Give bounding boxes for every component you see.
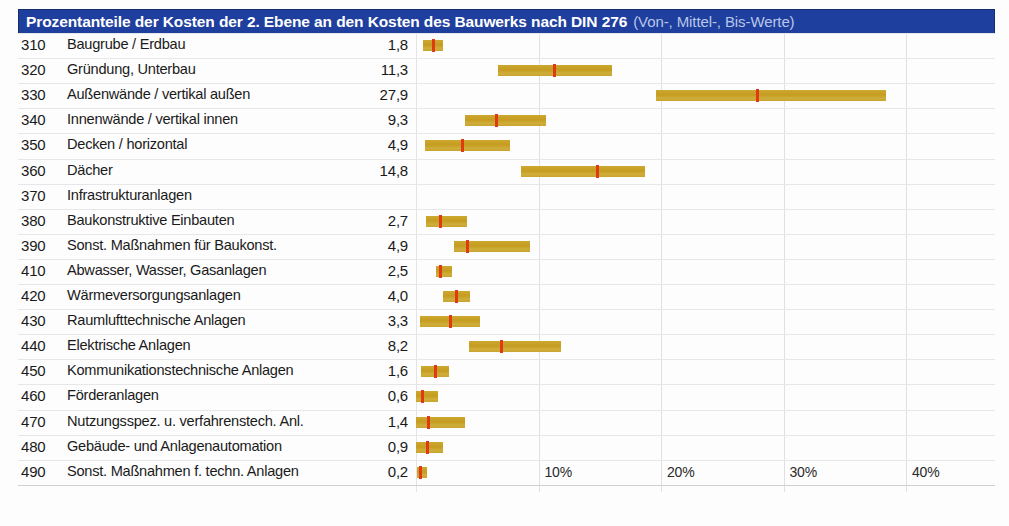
- range-bar: [436, 266, 452, 277]
- row-code: 490: [21, 463, 63, 480]
- page-title-note: (Von-, Mittel-, Bis-Werte): [633, 13, 794, 30]
- mean-marker: [434, 365, 437, 378]
- row-separator: [18, 410, 995, 411]
- row-code: 480: [21, 438, 63, 455]
- chart-title-bar: Prozentanteile der Kosten der 2. Ebene a…: [18, 9, 995, 34]
- gridline-40: [906, 34, 907, 492]
- row-value: 0,9: [318, 438, 408, 455]
- row-code: 430: [21, 312, 63, 329]
- mean-marker: [439, 265, 442, 278]
- row-value: 4,9: [318, 136, 408, 153]
- row-label: Außenwände / vertikal außen: [67, 86, 250, 102]
- row-code: 320: [21, 61, 63, 78]
- row-separator: [18, 33, 995, 34]
- row-separator: [18, 384, 995, 385]
- row-value: 4,0: [318, 287, 408, 304]
- row-value: 4,9: [318, 237, 408, 254]
- gridline-20: [661, 34, 662, 492]
- row-code: 340: [21, 111, 63, 128]
- row-label: Infrastrukturanlagen: [67, 187, 192, 203]
- range-bar: [469, 341, 561, 352]
- mean-marker: [455, 290, 458, 303]
- row-separator: [18, 58, 995, 59]
- row-label: Baukonstruktive Einbauten: [67, 212, 234, 228]
- mean-marker: [461, 139, 464, 152]
- row-value: 1,8: [318, 36, 408, 53]
- mean-marker: [439, 215, 442, 228]
- row-value: 27,9: [318, 86, 408, 103]
- row-code: 470: [21, 413, 63, 430]
- range-bar: [416, 442, 443, 453]
- row-separator: [18, 259, 995, 260]
- gridline-30: [784, 34, 785, 492]
- row-label: Sonst. Maßnahmen f. techn. Anlagen: [67, 463, 299, 479]
- row-value: 11,3: [318, 61, 408, 78]
- mean-marker: [553, 64, 556, 77]
- mean-marker: [421, 390, 424, 403]
- axis-baseline: [18, 485, 995, 486]
- range-bar: [416, 391, 438, 402]
- row-label: Wärmeversorgungsanlagen: [67, 287, 241, 303]
- row-code: 350: [21, 136, 63, 153]
- row-code: 390: [21, 237, 63, 254]
- row-separator: [18, 159, 995, 160]
- row-code: 410: [21, 262, 63, 279]
- x-tick-label-20: 20%: [667, 464, 694, 480]
- row-code: 460: [21, 387, 63, 404]
- row-value: 0,6: [318, 387, 408, 404]
- x-tick-label-10: 10%: [545, 464, 572, 480]
- row-separator: [18, 83, 995, 84]
- row-separator: [18, 234, 995, 235]
- row-value: 8,2: [318, 337, 408, 354]
- row-separator: [18, 334, 995, 335]
- mean-marker: [500, 340, 503, 353]
- row-separator: [18, 133, 995, 134]
- row-separator: [18, 359, 995, 360]
- row-separator: [18, 309, 995, 310]
- row-label: Förderanlagen: [67, 387, 159, 403]
- row-label: Sonst. Maßnahmen für Baukonst.: [67, 237, 277, 253]
- row-value: 0,2: [318, 463, 408, 480]
- x-tick-label-40: 40%: [912, 464, 939, 480]
- row-code: 360: [21, 162, 63, 179]
- range-bar: [465, 115, 546, 126]
- mean-marker: [432, 39, 435, 52]
- row-label: Raumlufttechnische Anlagen: [67, 312, 245, 328]
- row-label: Dächer: [67, 162, 113, 178]
- mean-marker: [426, 441, 429, 454]
- row-code: 370: [21, 187, 63, 204]
- range-bar: [426, 216, 468, 227]
- row-label: Kommunikationstechnische Anlagen: [67, 362, 293, 378]
- row-code: 380: [21, 212, 63, 229]
- row-value: 9,3: [318, 111, 408, 128]
- mean-marker: [466, 240, 469, 253]
- row-separator: [18, 108, 995, 109]
- row-label: Decken / horizontal: [67, 136, 187, 152]
- row-value: 3,3: [318, 312, 408, 329]
- row-label: Nutzungsspez. u. verfahrenstech. Anl.: [67, 413, 304, 429]
- row-code: 420: [21, 287, 63, 304]
- row-code: 310: [21, 36, 63, 53]
- row-separator: [18, 284, 995, 285]
- row-value: 14,8: [318, 162, 408, 179]
- page-title: Prozentanteile der Kosten der 2. Ebene a…: [26, 13, 627, 31]
- row-label: Innenwände / vertikal innen: [67, 111, 238, 127]
- row-label: Gebäude- und Anlagenautomation: [67, 438, 282, 454]
- row-code: 440: [21, 337, 63, 354]
- row-value: 1,4: [318, 413, 408, 430]
- row-code: 330: [21, 86, 63, 103]
- mean-marker: [419, 466, 422, 479]
- range-bar: [521, 166, 645, 177]
- chart-container: Prozentanteile der Kosten der 2. Ebene a…: [0, 0, 1009, 526]
- range-bar: [425, 140, 511, 151]
- row-value: 1,6: [318, 362, 408, 379]
- range-bar: [416, 417, 465, 428]
- row-value: 2,5: [318, 262, 408, 279]
- mean-marker: [756, 89, 759, 102]
- chart-body: 310Baugrube / Erdbau1,8320Gründung, Unte…: [18, 34, 995, 497]
- gridline-10: [539, 34, 540, 492]
- range-bar: [656, 90, 886, 101]
- row-label: Abwasser, Wasser, Gasanlagen: [67, 262, 266, 278]
- mean-marker: [495, 114, 498, 127]
- row-label: Gründung, Unterbau: [67, 61, 196, 77]
